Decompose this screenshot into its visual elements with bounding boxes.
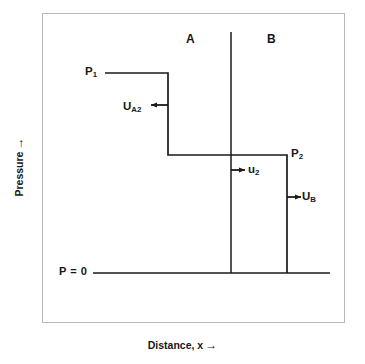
y-axis-label: Pressure→: [12, 112, 26, 222]
label-u-a2: UA2: [123, 101, 141, 113]
label-p-zero: P = 0: [59, 266, 87, 277]
x-axis-label: Distance, x→: [0, 338, 365, 352]
label-u-a2-subscript: A2: [131, 105, 141, 114]
y-axis-label-text: Pressure: [13, 152, 25, 197]
label-p1: P1: [85, 66, 97, 78]
diagram-canvas: [0, 0, 365, 364]
label-u-2-symbol: u: [248, 163, 255, 175]
label-u-2: u2: [248, 164, 259, 176]
x-axis-arrow-icon: →: [203, 338, 217, 352]
label-u-b: UB: [302, 191, 316, 203]
label-region-b: B: [267, 33, 276, 45]
label-u-b-subscript: B: [310, 195, 316, 204]
label-p1-symbol: P: [85, 65, 93, 77]
x-axis-label-text: Distance, x: [148, 339, 203, 351]
label-p2: P2: [291, 148, 303, 160]
label-p2-subscript: 2: [299, 152, 303, 161]
pressure-distance-figure: P1 UA2 A B u2 P2 UB P = 0 Pressure→ Dist…: [0, 0, 365, 364]
label-u-2-subscript: 2: [255, 168, 259, 177]
label-p1-subscript: 1: [93, 70, 97, 79]
y-axis-arrow-icon: →: [12, 138, 26, 152]
label-region-a: A: [186, 33, 195, 45]
label-p2-symbol: P: [291, 147, 299, 159]
